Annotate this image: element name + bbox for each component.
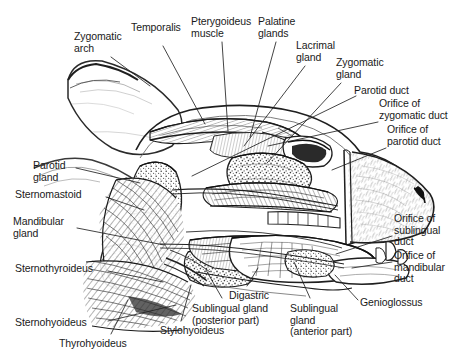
label-sternothyroideus: Sternothyroideus: [15, 263, 93, 275]
label-parotid-gland: Parotid gland: [33, 160, 66, 183]
label-parotid-duct: Parotid duct: [354, 85, 409, 97]
label-temporalis: Temporalis: [131, 22, 181, 34]
anatomical-figure: Zygomatic archTemporalisPterygoideus mus…: [0, 0, 459, 356]
label-lacrimal-gland: Lacrimal gland: [296, 40, 335, 63]
label-genioglossus: Genioglossus: [360, 297, 422, 309]
label-sublingual-gland-posterior: Sublingual gland (posterior part): [192, 303, 268, 326]
sublingual-gland-anterior: [285, 250, 334, 277]
label-stylohyoideus: Stylohyoideus: [160, 325, 224, 337]
label-mandibular-gland: Mandibular gland: [13, 216, 64, 239]
label-pterygoideus-muscle: Pterygoideus muscle: [191, 16, 251, 39]
label-sternomastoid: Sternomastoid: [15, 189, 81, 201]
label-orifice-parotid-duct: Orifice of parotid duct: [387, 124, 441, 147]
label-sternohyoideus: Sternohyoideus: [15, 317, 87, 329]
label-zygomatic-gland: Zygomatic gland: [336, 57, 384, 80]
label-zygomatic-arch: Zygomatic arch: [74, 31, 122, 54]
label-orifice-sublingual-duct: Orifice of sublingual duct: [394, 213, 440, 248]
label-orifice-mandibular-duct: Orifice of mandibular duct: [394, 250, 445, 285]
label-thyrohyoideus: Thyrohyoideus: [59, 338, 127, 350]
label-digastric: Digastric: [229, 290, 269, 302]
label-orifice-zygomatic-duct: Orifice of zygomatic duct: [379, 98, 448, 121]
label-sublingual-gland-anterior: Sublingual gland (anterior part): [290, 303, 352, 338]
label-palatine-glands: Palatine glands: [258, 16, 295, 39]
